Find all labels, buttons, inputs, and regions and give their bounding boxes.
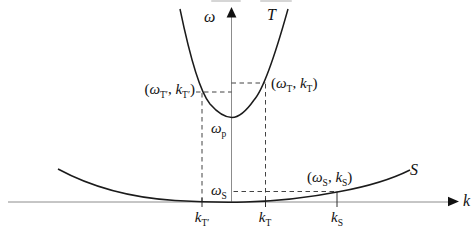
s-curve-label: S [410, 162, 418, 178]
dispersion-relation-diagram: ω k T S (ωT′, kT′) (ωT, kT) (ωS, kS) ωp … [0, 0, 475, 234]
point-label-omegaTprime-kTprime: (ωT′, kT′) [131, 82, 195, 100]
y-axis-arrowhead-icon [227, 7, 237, 18]
omega-s-label: ωS [211, 183, 227, 201]
x-tick-label-kT: kT [253, 210, 277, 228]
diagram-canvas [0, 0, 475, 234]
x-tick-label-kTprime: kT′ [190, 210, 214, 228]
t-curve-label: T [267, 7, 276, 23]
t-curve [180, 9, 288, 118]
s-curve [58, 169, 410, 202]
x-axis-label: k [463, 193, 470, 209]
x-axis-arrowhead-icon [448, 197, 459, 206]
x-tick-label-kS: kS [325, 210, 349, 228]
point-label-omegaT-kT: (ωT, kT) [271, 76, 317, 94]
omega-p-label: ωp [211, 121, 226, 139]
y-axis-label: ω [204, 9, 215, 25]
point-label-omegaS-kS: (ωS, kS) [307, 170, 352, 188]
